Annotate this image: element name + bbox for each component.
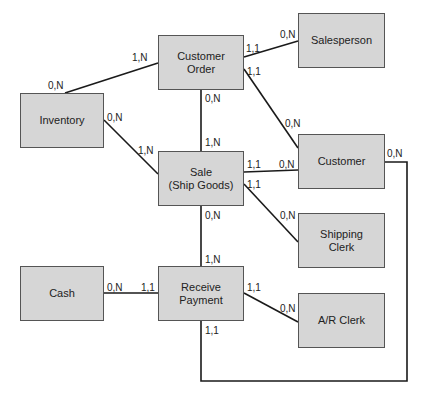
cardinality-label: 1,N	[205, 138, 221, 148]
cardinality-label: 0,N	[280, 211, 296, 221]
entity-cash: Cash	[20, 266, 104, 321]
cardinality-label: 1,1	[247, 283, 261, 293]
entity-salesperson: Salesperson	[298, 13, 385, 68]
cardinality-label: 1,1	[141, 283, 155, 293]
cardinality-label: 0,N	[280, 30, 296, 40]
cardinality-label: 1,1	[205, 326, 219, 336]
cardinality-label: 0,N	[205, 211, 221, 221]
cardinality-label: 1,N	[132, 53, 148, 63]
cardinality-label: 1,1	[246, 44, 260, 54]
cardinality-label: 0,N	[107, 113, 123, 123]
cardinality-label: 0,N	[285, 119, 301, 129]
entity-customer-order: Customer Order	[158, 35, 244, 90]
cardinality-label: 1,1	[247, 160, 261, 170]
cardinality-label: 1,N	[205, 255, 221, 265]
cardinality-label: 1,1	[247, 67, 261, 77]
entity-ar-clerk: A/R Clerk	[298, 293, 385, 348]
cardinality-label: 0,N	[280, 304, 296, 314]
entity-sale: Sale (Ship Goods)	[158, 151, 244, 206]
cardinality-label: 0,N	[205, 94, 221, 104]
entity-customer: Customer	[298, 134, 385, 189]
entity-shipping-clerk: Shipping Clerk	[298, 213, 385, 268]
entity-inventory: Inventory	[20, 93, 104, 148]
cardinality-label: 0,N	[387, 149, 403, 159]
er-diagram: Customer Order Salesperson Inventory Sal…	[0, 0, 427, 396]
entity-receive-payment: Receive Payment	[158, 266, 244, 321]
cardinality-label: 1,1	[247, 180, 261, 190]
cardinality-label: 0,N	[279, 160, 295, 170]
cardinality-label: 1,N	[138, 146, 154, 156]
cardinality-label: 0,N	[107, 283, 123, 293]
cardinality-label: 0,N	[48, 81, 64, 91]
